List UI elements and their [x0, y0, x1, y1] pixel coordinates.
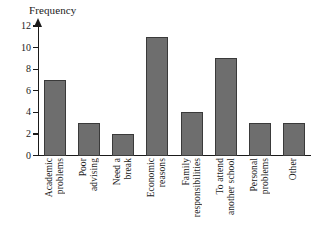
x-axis-category-label: To attendanother school [209, 158, 243, 232]
x-axis-category-label-line: Personal [249, 158, 260, 192]
x-axis-category-label-line: responsibilities [192, 158, 203, 217]
bar [44, 80, 66, 156]
x-axis-category-label: Familyresponsibilities [175, 158, 209, 232]
bar [215, 58, 237, 155]
x-axis-category-label-line: advising [89, 158, 100, 191]
plot-area [38, 26, 311, 156]
x-axis-category-label-line: break [123, 158, 134, 180]
x-axis-category-label-line: problems [55, 158, 66, 194]
y-axis-tick-label-wrap: 10 [6, 43, 31, 53]
bar [78, 123, 100, 155]
y-axis-tick-label-wrap: 4 [6, 107, 31, 117]
y-axis-tick-label-wrap: 0 [6, 151, 31, 161]
x-axis-category-label: Pooradvising [72, 158, 106, 232]
x-axis-category-label: Other [277, 158, 311, 232]
x-axis-category-label-line: reasons [157, 158, 168, 187]
y-axis-tick-label: 8 [9, 64, 31, 74]
y-axis-tick-label-wrap: 8 [6, 64, 31, 74]
y-axis-tick-label: 2 [9, 129, 31, 139]
x-axis-category-label: Academicproblems [38, 158, 72, 232]
x-axis-category-label-line: Need a [112, 158, 123, 185]
x-axis-category-label-line: Other [288, 158, 299, 180]
x-axis-category-label-line: Economic [146, 158, 157, 197]
x-axis-category-labels: AcademicproblemsPooradvisingNeed abreakE… [38, 158, 311, 233]
x-axis-category-label: Need abreak [106, 158, 140, 232]
y-axis-tick-label-wrap: 12 [6, 21, 31, 31]
x-axis-category-label: Personalproblems [243, 158, 277, 232]
bar [112, 134, 134, 156]
bar [181, 112, 203, 155]
x-axis-category-label-line: another school [226, 158, 237, 215]
y-axis-tick-label-wrap: 6 [6, 86, 31, 96]
y-axis-tick-label: 4 [9, 107, 31, 117]
frequency-bar-chart: Frequency 024681012 AcademicproblemsPoor… [0, 0, 321, 233]
x-axis-category-label-line: Academic [44, 158, 55, 197]
x-axis-category-label: Economicreasons [140, 158, 174, 232]
y-axis-tick-label: 12 [9, 21, 31, 31]
y-axis-tick-label-wrap: 2 [6, 129, 31, 139]
y-axis-tick-label: 6 [9, 86, 31, 96]
bar [146, 37, 168, 156]
y-axis-tick-label: 10 [9, 43, 31, 53]
y-axis-tick-label: 0 [9, 151, 31, 161]
x-axis-category-label-line: Family [181, 158, 192, 186]
x-axis-category-label-line: problems [260, 158, 271, 194]
x-axis-category-label-line: To attend [215, 158, 226, 194]
x-axis-category-label-line: Poor [78, 158, 89, 176]
y-axis-title: Frequency [29, 4, 76, 16]
bar [249, 123, 271, 155]
bar [283, 123, 305, 155]
